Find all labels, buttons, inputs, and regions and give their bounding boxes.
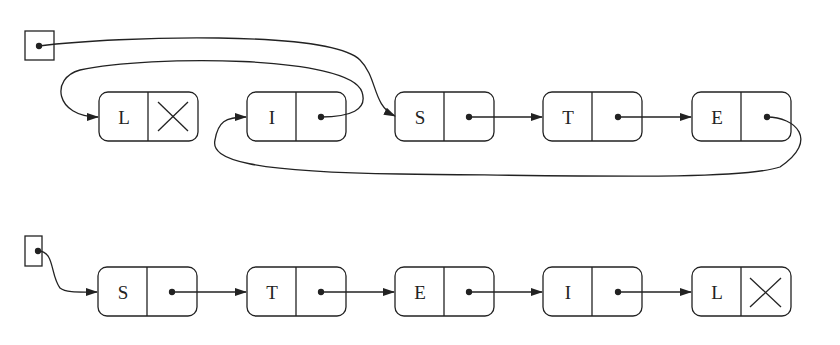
top-node-E-label: E [711,107,723,128]
top-node-L [99,92,198,141]
bottom-node-S-label: S [118,282,129,303]
top-node-L-label: L [118,107,130,128]
top-node-T-label: T [562,107,574,128]
top-node-I-label: I [269,107,275,128]
top-node-S-label: S [415,107,426,128]
bottom-node-L-label: L [711,282,723,303]
bottom-node-I-label: I [565,282,571,303]
top-node-E [692,92,791,141]
linked-list-diagram: L I S T E S T E I L [0,0,840,345]
bottom-node-L [692,267,791,316]
bottom-node-T-label: T [266,282,278,303]
bottom-node-E-label: E [414,282,426,303]
bottom-head-arrow [38,251,97,292]
